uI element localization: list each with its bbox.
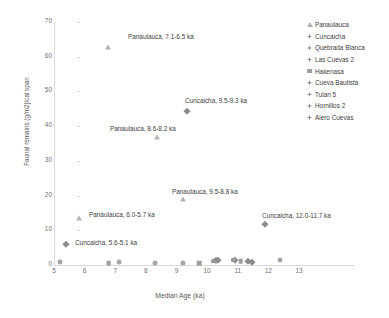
diamond4-marker-icon: [307, 103, 312, 108]
data-point: [106, 261, 111, 266]
square-marker-icon: [197, 261, 202, 266]
legend-label: Alero Cuevas: [315, 114, 353, 121]
legend-item[interactable]: Quebrada Blanca: [305, 42, 389, 54]
legend-label: Hakenasa: [315, 68, 344, 75]
data-point: [58, 259, 63, 264]
legend-item[interactable]: Cueva Bautista: [305, 77, 389, 89]
legend-marker-wrap: [305, 34, 314, 39]
data-point: [211, 258, 216, 263]
x-tick-label: 8: [136, 268, 156, 275]
pentagon-marker-icon: [211, 258, 216, 263]
x-tick-label: 12: [258, 268, 278, 275]
legend-label: Cueva Bautista: [315, 79, 358, 86]
triangle-marker-icon: [180, 197, 186, 202]
data-point: [180, 260, 185, 265]
diamond4-marker-icon: [307, 34, 312, 39]
scatter-chart: 010203040506070 5678910111213 Median Age…: [0, 0, 389, 318]
diamond4-marker-icon: [307, 80, 312, 85]
point-annotation: Cuncaicha, 9.5-9.3 ka: [185, 98, 247, 104]
legend-marker-wrap: [305, 115, 314, 120]
diamond-marker-icon: [184, 107, 190, 113]
chart-legend: PanaulaucaCuncaichaQuebrada BlancaLas Cu…: [305, 19, 389, 123]
point-annotation: Panaulauca, 8.6-8.2 ka: [110, 126, 176, 132]
square-marker-icon: [106, 261, 111, 266]
y-tick-label: 60: [30, 53, 52, 60]
triangle-marker-icon: [76, 216, 82, 221]
legend-label: Tulan 5: [315, 91, 336, 98]
data-point: [216, 257, 221, 262]
x-axis-title: Median Age (ka): [0, 292, 360, 299]
y-tick-label: 70: [30, 18, 52, 25]
square-marker-icon: [239, 259, 244, 264]
data-point: [64, 242, 69, 247]
data-point: [231, 257, 236, 262]
y-axis-ticks: 010203040506070: [26, 0, 52, 243]
legend-item[interactable]: Hornillos 2: [305, 100, 389, 112]
data-point: [262, 222, 267, 227]
point-annotation: Cuncaicha, 12.0-11.7 ka: [262, 213, 331, 219]
data-point: [249, 259, 254, 264]
diamond4-marker-icon: [307, 45, 312, 50]
legend-label: Cuncaicha: [315, 33, 345, 40]
y-tick-label: 20: [30, 192, 52, 199]
diamond4-marker-icon: [307, 115, 312, 120]
legend-marker-wrap: [305, 22, 314, 27]
y-tick-label: 0: [30, 261, 52, 268]
legend-marker-wrap: [305, 69, 314, 74]
data-point: [239, 259, 244, 264]
legend-item[interactable]: Las Cuevas 2: [305, 54, 389, 66]
x-tick-label: 9: [167, 268, 187, 275]
point-annotation: Panaulauca, 7.1-6.5 ka: [128, 34, 194, 40]
legend-label: Hornillos 2: [315, 102, 345, 109]
data-point: [105, 44, 111, 49]
x-axis-line: [54, 265, 354, 266]
triangle-marker-icon: [154, 134, 160, 139]
data-point: [76, 216, 82, 221]
diamond-marker-icon: [261, 221, 267, 227]
point-annotation: Cuncaicha, 5.6-5.1 ka: [75, 240, 137, 246]
triangle-marker-icon: [307, 22, 313, 27]
triangle-marker-icon: [105, 44, 111, 49]
x-axis-ticks: 5678910111213: [0, 268, 389, 282]
square-marker-icon: [307, 69, 312, 74]
circle-marker-icon: [180, 260, 185, 265]
data-point: [185, 108, 190, 113]
diamond4-marker-icon: [307, 57, 312, 62]
x-tick-label: 6: [75, 268, 95, 275]
pentagon-marker-icon: [231, 257, 236, 262]
legend-marker-wrap: [305, 103, 314, 108]
circle-marker-icon: [58, 259, 63, 264]
data-point: [116, 259, 121, 264]
legend-marker-wrap: [305, 45, 314, 50]
legend-label: Quebrada Blanca: [315, 44, 365, 51]
legend-item[interactable]: Alero Cuevas: [305, 112, 389, 124]
point-annotation: Panaulauca, 9.5-8.8 ka: [172, 189, 238, 195]
circle-marker-icon: [153, 260, 158, 265]
data-point: [154, 134, 160, 139]
legend-item[interactable]: Cuncaicha: [305, 31, 389, 43]
legend-marker-wrap: [305, 57, 314, 62]
x-tick-label: 11: [228, 268, 248, 275]
legend-label: Las Cuevas 2: [315, 56, 354, 63]
data-point: [278, 258, 283, 263]
data-point: [153, 260, 158, 265]
x-tick-label: 5: [44, 268, 64, 275]
y-axis-title: Faunal remains (g/m2)/cal span: [23, 47, 30, 197]
y-tick-label: 50: [30, 87, 52, 94]
y-tick-label: 30: [30, 157, 52, 164]
diamond-marker-icon: [63, 241, 69, 247]
diamond-marker-icon: [248, 258, 254, 264]
diamond4-marker-icon: [307, 92, 312, 97]
legend-item[interactable]: Panaulauca: [305, 19, 389, 31]
y-tick-mark: [77, 265, 80, 266]
data-point: [197, 261, 202, 266]
point-annotation: Panaulauca, 6.0-5.7 ka: [89, 212, 155, 218]
legend-item[interactable]: Tulan 5: [305, 89, 389, 101]
x-tick-label: 13: [289, 268, 309, 275]
x-tick-label: 7: [105, 268, 125, 275]
legend-item[interactable]: Hakenasa: [305, 65, 389, 77]
x-tick-label: 10: [197, 268, 217, 275]
circle-marker-icon: [278, 258, 283, 263]
plot-area: [54, 22, 299, 265]
y-tick-label: 10: [30, 226, 52, 233]
